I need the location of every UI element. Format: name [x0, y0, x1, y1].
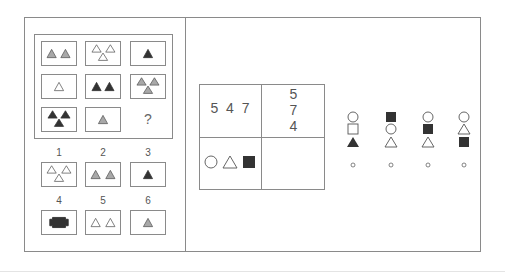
- two-black-triangles-icon: [86, 75, 120, 98]
- three-white-triangles-icon: [42, 163, 76, 186]
- option-label-2: 2: [85, 148, 121, 158]
- option-marker-icon: [389, 163, 393, 167]
- grid-bottom-left-shapes: [203, 154, 259, 170]
- matrix-cell-r3c1: [41, 107, 77, 132]
- black-square-icon: [243, 156, 255, 168]
- stack-option-1[interactable]: [345, 111, 361, 171]
- matrix-cell-r2c2: [85, 74, 121, 99]
- triangle-icon: [458, 124, 470, 134]
- grid-top-left-numbers: 5 4 7: [199, 100, 261, 116]
- option-4[interactable]: [41, 210, 77, 235]
- stack-option-2[interactable]: [383, 111, 399, 171]
- black-triangle-icon: [131, 163, 165, 186]
- triangle-icon: [223, 156, 237, 168]
- number-4: 4: [262, 118, 325, 134]
- option-marker-icon: [351, 163, 355, 167]
- matrix-cell-r1c2: [85, 41, 121, 66]
- circle-icon: [205, 156, 217, 168]
- matrix-cell-r3c2: [85, 107, 121, 132]
- option-label-1: 1: [41, 148, 77, 158]
- black-triangle-icon: [347, 137, 359, 147]
- white-triangle-icon: [42, 75, 76, 98]
- option-2[interactable]: [85, 162, 121, 187]
- grid-answer-cell: [262, 138, 325, 190]
- option-3[interactable]: [130, 162, 166, 187]
- circle-icon: [423, 112, 433, 122]
- option-label-4: 4: [41, 196, 77, 206]
- option-5[interactable]: [85, 210, 121, 235]
- option-6[interactable]: [130, 210, 166, 235]
- three-gray-triangles-icon: [131, 75, 165, 98]
- option-marker-icon: [426, 163, 430, 167]
- three-white-triangles-icon: [86, 42, 120, 65]
- stack-option-3[interactable]: [420, 111, 436, 171]
- option-label-5: 5: [85, 196, 121, 206]
- circle-icon: [348, 112, 358, 122]
- gray-triangle-icon: [131, 211, 165, 234]
- option-label-3: 3: [130, 148, 166, 158]
- stack-option-4[interactable]: [456, 111, 472, 171]
- matrix-cell-r2c3: [130, 74, 166, 99]
- option-1[interactable]: [41, 162, 77, 187]
- three-black-triangles-icon: [42, 108, 76, 131]
- triangle-icon: [385, 137, 397, 147]
- black-square-icon: [459, 137, 469, 147]
- circle-icon: [386, 124, 396, 134]
- matrix-cell-r1c1: [41, 41, 77, 66]
- circle-icon: [459, 112, 469, 122]
- black-square-icon: [386, 112, 396, 122]
- triangle-icon: [422, 137, 434, 147]
- grid-top-right-numbers: 5 7 4: [262, 86, 325, 134]
- black-triangle-icon: [131, 42, 165, 65]
- black-square-icon: [423, 124, 433, 134]
- two-gray-triangles-icon: [42, 42, 76, 65]
- two-white-triangles-icon: [86, 211, 120, 234]
- option-marker-icon: [462, 163, 466, 167]
- square-icon: [348, 124, 358, 134]
- matrix-cell-r2c1: [41, 74, 77, 99]
- gray-triangle-icon: [86, 108, 120, 131]
- number-5: 5: [262, 86, 325, 102]
- bottom-rule: [0, 271, 505, 272]
- two-gray-triangles-icon: [86, 163, 120, 186]
- number-7: 7: [262, 102, 325, 118]
- matrix-cell-r1c3: [130, 41, 166, 66]
- option-label-6: 6: [130, 196, 166, 206]
- missing-cell-question-mark: ?: [130, 107, 166, 132]
- panel-divider: [185, 17, 186, 252]
- black-blob-icon: [42, 211, 76, 234]
